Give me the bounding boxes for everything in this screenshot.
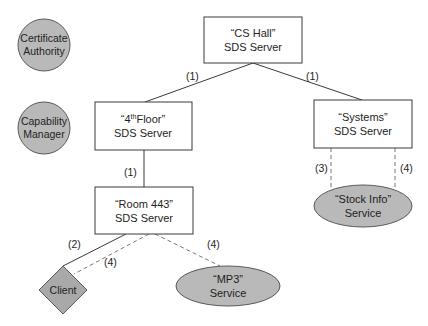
box-shape (95, 187, 193, 234)
node-label: “4thFloor” (121, 113, 166, 125)
node-label: SDS Server (224, 41, 282, 53)
node-label: Service (345, 207, 382, 219)
node-label: “Systems” (338, 111, 388, 123)
ellipse-shape (176, 266, 280, 306)
box-shape (204, 17, 302, 63)
edge-label: (1) (124, 166, 137, 178)
mp3-service-node: “MP3” Service (176, 266, 280, 306)
node-label: Service (210, 287, 247, 299)
edge-label: (1) (186, 70, 199, 82)
node-label: Capability (21, 115, 68, 127)
edge-label: (1) (306, 70, 319, 82)
node-label: Certificate (20, 32, 67, 44)
client-node: Client (39, 266, 87, 314)
edge-label: (4) (104, 256, 117, 268)
fourth-floor-server-node: “4thFloor” SDS Server (95, 102, 192, 150)
node-label: “CS Hall” (231, 27, 276, 39)
edges (63, 63, 395, 274)
node-label: “Stock Info” (335, 193, 392, 205)
cs-hall-server-node: “CS Hall” SDS Server (204, 17, 302, 63)
edge-label: (3) (315, 162, 328, 174)
capability-manager-node: Capability Manager (18, 102, 70, 154)
box-shape (314, 100, 412, 148)
node-label: Authority (23, 45, 65, 57)
room-443-server-node: “Room 443” SDS Server (95, 187, 193, 234)
box-shape (95, 102, 192, 150)
systems-server-node: “Systems” SDS Server (314, 100, 412, 148)
certificate-authority-node: Certificate Authority (18, 19, 70, 71)
edge-label: (4) (400, 162, 413, 174)
node-label: SDS Server (114, 127, 172, 139)
edge-cshall-4thfloor (145, 63, 253, 102)
edge-label: (2) (68, 238, 81, 250)
node-label: “MP3” (213, 273, 243, 285)
stock-info-service-node: “Stock Info” Service (314, 185, 412, 227)
ellipse-shape (314, 185, 412, 227)
edge-room443-client-dashed (74, 234, 149, 274)
node-label: Client (50, 284, 77, 296)
node-label: “Room 443” (115, 198, 173, 210)
node-label: SDS Server (115, 212, 173, 224)
sds-architecture-diagram: (1) (1) (1) (2) (4) (4) (3) (4) Certific… (0, 0, 428, 326)
node-label: Manager (23, 128, 65, 140)
edge-label: (4) (207, 238, 220, 250)
node-label: SDS Server (334, 125, 392, 137)
